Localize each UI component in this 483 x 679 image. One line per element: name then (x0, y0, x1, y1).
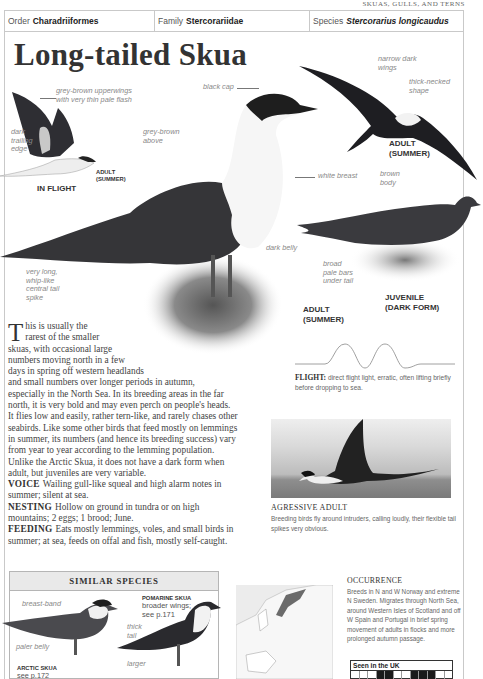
aggressive-adult-photo (271, 419, 451, 498)
flight-head: FLIGHT: (295, 373, 326, 382)
flight-description: FLIGHT: direct flight light, erratic, of… (295, 373, 455, 392)
order-label: Order (8, 16, 30, 26)
body-line: skuas, with occasional large (8, 344, 268, 355)
voice-heading: VOICE (8, 479, 40, 489)
photo-caption: Breeding birds fly around intruders, cal… (271, 514, 456, 533)
label-breast-band: breast-band (22, 600, 61, 609)
seen-in-uk-calendar: Seen in the UK (350, 660, 453, 679)
feeding-text: Eats mostly lemmings, voles, and small b… (55, 524, 233, 534)
body-line: Unlike the Arctic Skua, it does not have… (8, 457, 268, 468)
body-line: and small numbers over longer periods in… (8, 377, 268, 388)
page-title: Long-tailed Skua (14, 37, 247, 73)
body-line: seabirds. Like some other birds that fee… (8, 423, 268, 434)
running-head: SKUAS, GULLS, AND TERNS (362, 0, 465, 8)
body-line: north, it is very bold and may even perc… (8, 400, 268, 411)
month-cell-J (394, 671, 403, 679)
species-cell: Species Stercorarius longicaudus (310, 11, 463, 31)
month-cell-M (368, 671, 377, 679)
label-paler-belly: paler belly (16, 643, 49, 652)
pomarine-skua-desc: broader wings; see p.171 (142, 602, 191, 619)
family-cell: Family Stercorariidae (155, 11, 310, 31)
body-line: his is usually the (8, 321, 268, 332)
nesting-text: mountains; 2 eggs; 1 brood; June. (8, 513, 268, 524)
voice-text: Wailing gull-like squeal and high alarm … (43, 479, 222, 489)
occurrence-heading: OCCURRENCE (347, 576, 402, 585)
body-line: numbers moving north in a few (8, 355, 268, 366)
leader-line (237, 88, 259, 89)
label-thick-necked: thick-necked shape (409, 78, 450, 95)
body-line: adult, but juveniles are very variable. (8, 468, 268, 479)
month-cell-M (385, 671, 394, 679)
feeding-section: FEEDINGEats mostly lemmings, voles, and … (8, 524, 268, 535)
flying-adult-caption: ADULT (SUMMER) (389, 139, 430, 158)
month-cell-O (428, 671, 437, 679)
label-dark-belly: dark belly (266, 244, 297, 253)
order-value: Charadriiformes (33, 16, 99, 26)
occurrence-text: Breeds in N and W Norway and extreme N S… (347, 587, 461, 643)
label-thick-tail: thick tail (127, 623, 142, 640)
family-label: Family (158, 16, 183, 26)
label-larger: larger (127, 660, 146, 669)
body-line: It flies low and easily, rather tern-lik… (8, 411, 268, 422)
month-cell-A (377, 671, 386, 679)
species-value: Stercorarius longicaudus (346, 16, 449, 26)
species-label: Species (313, 16, 343, 26)
juvenile-caption: JUVENILE (DARK FORM) (385, 293, 439, 312)
distribution-map (236, 585, 333, 679)
feeding-heading: FEEDING (8, 524, 52, 534)
month-cell-D (445, 671, 453, 679)
month-cell-N (436, 671, 445, 679)
species-description: T his is usually the rarest of the small… (8, 321, 268, 547)
body-line: in summer, its numbers (and hence its br… (8, 434, 268, 445)
dropcap: T (8, 323, 23, 343)
taxonomy-bar: Order Charadriiformes Family Stercorarii… (5, 11, 463, 32)
order-cell: Order Charadriiformes (5, 11, 155, 31)
month-cell-J (402, 671, 411, 679)
nesting-text: Hollow on ground in tundra or on high (55, 502, 199, 512)
similar-species-title: SIMILAR SPECIES (10, 572, 218, 591)
month-grid (351, 671, 452, 679)
label-tail-spike: very long, whip-like central tail spike (26, 268, 59, 302)
body-line: from year to year according to the lemmi… (8, 445, 268, 456)
flight-pattern-diagram (295, 340, 455, 370)
feeding-text: summer; at sea, feeds on offal and fish,… (8, 536, 268, 547)
month-cell-J (351, 671, 360, 679)
arctic-skua-ref: see p.172 (17, 672, 49, 679)
label-grey-brown-above: grey-brown above (143, 128, 180, 145)
nesting-heading: NESTING (8, 502, 52, 512)
month-cell-F (360, 671, 369, 679)
europe-map (236, 585, 333, 679)
standing-adult-caption: ADULT (SUMMER) (303, 305, 344, 324)
seen-in-uk-label: Seen in the UK (351, 661, 452, 671)
nesting-section: NESTINGHollow on ground in tundra or on … (8, 502, 268, 513)
body-line: rarest of the smaller (8, 332, 268, 343)
month-cell-S (419, 671, 428, 679)
body-line: days in spring off western headlands (8, 366, 268, 377)
label-pale-bars: broad pale bars under tail (323, 260, 353, 286)
month-cell-A (411, 671, 420, 679)
voice-section: VOICEWailing gull-like squeal and high a… (8, 479, 268, 490)
family-value: Stercorariidae (186, 16, 243, 26)
photo-heading: AGRESSIVE ADULT (271, 503, 347, 512)
body-line: especially in the North Sea. In its bree… (8, 389, 268, 400)
aggressive-adult-bird (271, 419, 451, 498)
label-narrow-wings: narrow dark wings (378, 55, 417, 72)
voice-text: summer; silent at sea. (8, 490, 268, 501)
label-brown-body: brown body (380, 170, 400, 187)
label-black-cap: black cap (203, 83, 234, 92)
